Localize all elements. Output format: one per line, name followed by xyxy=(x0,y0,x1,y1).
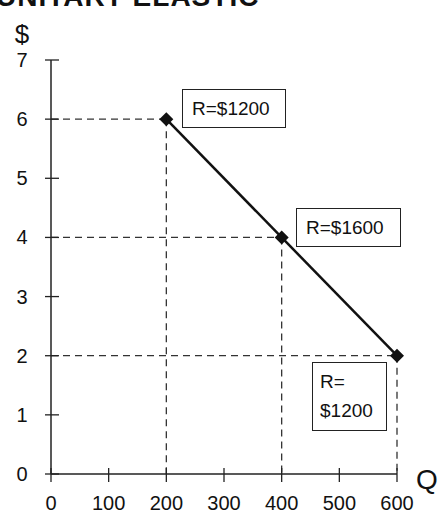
annotation-revenue-400: R=$1600 xyxy=(296,208,401,247)
y-tick-label: 5 xyxy=(16,167,27,189)
annotation-label-line2: $1200 xyxy=(320,396,386,425)
annotation-revenue-600: R= $1200 xyxy=(312,362,387,431)
y-tick-label: 2 xyxy=(16,345,27,367)
x-tick-label: 200 xyxy=(150,492,183,514)
y-tick-label: 7 xyxy=(16,49,27,71)
y-tick-label: 3 xyxy=(16,286,27,308)
x-tick-label: 500 xyxy=(323,492,356,514)
x-tick-label: 0 xyxy=(45,492,56,514)
x-tick-label: 100 xyxy=(92,492,125,514)
annotation-label: R=$1600 xyxy=(306,217,384,238)
annotation-label-line1: R= xyxy=(320,367,386,396)
x-axis-label: Q xyxy=(416,464,438,495)
y-tick-label: 6 xyxy=(16,108,27,130)
x-tick-label: 600 xyxy=(380,492,413,514)
chart-plot: 012345670100200300400500600$Q xyxy=(0,0,446,528)
x-tick-label: 400 xyxy=(265,492,298,514)
annotation-label: R=$1200 xyxy=(192,98,270,119)
y-axis-label: $ xyxy=(15,19,30,49)
x-tick-label: 300 xyxy=(207,492,240,514)
y-tick-label: 4 xyxy=(16,226,27,248)
y-tick-label: 1 xyxy=(16,404,27,426)
annotation-revenue-200: R=$1200 xyxy=(182,89,286,128)
y-tick-label: 0 xyxy=(16,463,27,485)
